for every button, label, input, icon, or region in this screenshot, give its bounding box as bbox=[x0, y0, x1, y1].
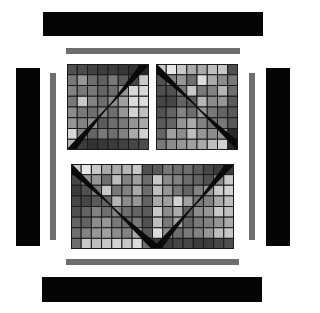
grid-cell bbox=[118, 64, 128, 75]
grid-cell bbox=[71, 238, 81, 249]
grid-cell bbox=[156, 96, 166, 107]
grid-cell bbox=[203, 196, 213, 207]
grid-cell bbox=[112, 238, 122, 249]
grid-cell bbox=[207, 75, 217, 86]
grid-cell bbox=[183, 238, 193, 249]
grid-cell bbox=[153, 217, 163, 228]
grid-cell bbox=[163, 217, 173, 228]
grid-cell bbox=[163, 175, 173, 186]
grid-cell bbox=[122, 175, 132, 186]
grid-cell bbox=[108, 86, 118, 97]
grid-cell bbox=[156, 118, 166, 129]
grid-cell bbox=[142, 164, 152, 175]
grid-cell bbox=[71, 228, 81, 239]
grid-cell bbox=[197, 118, 207, 129]
grid-cell bbox=[112, 217, 122, 228]
grid-cell bbox=[122, 185, 132, 196]
grid-cell bbox=[112, 175, 122, 186]
grid-cell bbox=[224, 238, 234, 249]
grid-cell bbox=[173, 238, 183, 249]
grid-cell bbox=[177, 107, 187, 118]
grid-cell bbox=[139, 96, 149, 107]
grid-cell bbox=[142, 185, 152, 196]
grid-cell bbox=[77, 107, 87, 118]
grid-cell bbox=[177, 96, 187, 107]
grid-cell bbox=[218, 107, 228, 118]
right-gray-bar bbox=[249, 73, 255, 240]
grid-cell bbox=[197, 75, 207, 86]
grid-cell bbox=[139, 107, 149, 118]
bottom-black-bar bbox=[42, 277, 262, 302]
grid-cell bbox=[166, 64, 176, 75]
grid-cell bbox=[108, 75, 118, 86]
grid-cell bbox=[183, 196, 193, 207]
grid-cell bbox=[112, 196, 122, 207]
grid-cell bbox=[183, 164, 193, 175]
grid-cell bbox=[153, 196, 163, 207]
grid-cell bbox=[228, 118, 238, 129]
grid-cell bbox=[67, 75, 77, 86]
grid-cell bbox=[88, 107, 98, 118]
grid-cell bbox=[224, 175, 234, 186]
grid-cell bbox=[132, 175, 142, 186]
grid-cell bbox=[98, 129, 108, 140]
grid-cell bbox=[122, 164, 132, 175]
grid-cell bbox=[166, 118, 176, 129]
grid-cell bbox=[108, 129, 118, 140]
top-right-grid-panel bbox=[156, 64, 238, 150]
grid-cell bbox=[187, 75, 197, 86]
grid-cell bbox=[193, 228, 203, 239]
grid-cell bbox=[91, 175, 101, 186]
grid-cell bbox=[187, 118, 197, 129]
grid-cell bbox=[193, 207, 203, 218]
grid-cell bbox=[193, 175, 203, 186]
grid-cell bbox=[207, 139, 217, 150]
grid-cell bbox=[183, 175, 193, 186]
grid-cell bbox=[224, 196, 234, 207]
grid-cell bbox=[132, 238, 142, 249]
top-black-bar bbox=[43, 12, 263, 36]
grid-cell bbox=[193, 238, 203, 249]
grid-cell bbox=[81, 217, 91, 228]
grid-cell bbox=[177, 118, 187, 129]
grid-cell bbox=[102, 185, 112, 196]
grid-cell bbox=[108, 118, 118, 129]
grid-cell bbox=[91, 196, 101, 207]
grid-cell bbox=[118, 129, 128, 140]
grid-cell bbox=[81, 207, 91, 218]
grid-cell bbox=[203, 228, 213, 239]
grid-cell bbox=[139, 139, 149, 150]
grid-cell bbox=[177, 139, 187, 150]
grid-cell bbox=[142, 207, 152, 218]
grid-cell bbox=[122, 207, 132, 218]
grid-cell bbox=[228, 64, 238, 75]
grid-cell bbox=[207, 86, 217, 97]
grid-cell bbox=[153, 175, 163, 186]
grid-cell bbox=[203, 217, 213, 228]
grid-cell bbox=[207, 107, 217, 118]
grid-cell bbox=[139, 129, 149, 140]
grid-cell bbox=[129, 129, 139, 140]
grid-cell bbox=[187, 129, 197, 140]
grid-cell bbox=[102, 217, 112, 228]
grid-cell bbox=[214, 228, 224, 239]
grid-cell bbox=[118, 96, 128, 107]
grid-cell bbox=[166, 96, 176, 107]
grid-cell bbox=[67, 86, 77, 97]
grid-cell bbox=[81, 164, 91, 175]
grid-cell bbox=[197, 129, 207, 140]
grid-cell bbox=[88, 96, 98, 107]
grid-cell bbox=[177, 64, 187, 75]
grid-cell bbox=[129, 139, 139, 150]
grid-cell bbox=[139, 118, 149, 129]
grid-cell bbox=[81, 228, 91, 239]
grid-cell bbox=[218, 96, 228, 107]
grid-cell bbox=[122, 228, 132, 239]
grid-cell bbox=[163, 185, 173, 196]
grid-cell bbox=[197, 139, 207, 150]
grid-cell bbox=[142, 175, 152, 186]
grid-cell bbox=[102, 207, 112, 218]
grid-cell bbox=[102, 175, 112, 186]
grid-cell bbox=[224, 217, 234, 228]
grid-cell bbox=[122, 196, 132, 207]
